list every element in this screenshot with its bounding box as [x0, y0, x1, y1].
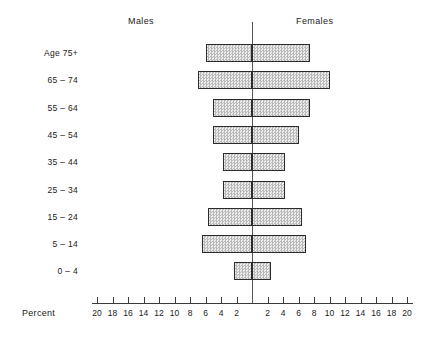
bar-male — [223, 181, 252, 199]
x-axis-tick — [407, 297, 408, 303]
bar-male — [213, 126, 252, 144]
plot-area: Age 75+65 – 7455 – 6445 – 5435 – 4425 – … — [0, 0, 444, 337]
bar-male — [208, 208, 252, 226]
x-axis-tick — [330, 297, 331, 303]
x-axis-tick — [345, 297, 346, 303]
bar-male — [213, 99, 252, 117]
x-axis-tick — [113, 297, 114, 303]
bar-row: 5 – 14 — [0, 235, 444, 253]
age-group-label: 45 – 54 — [48, 130, 78, 140]
age-group-label: Age 75+ — [44, 48, 78, 58]
age-group-label: 0 – 4 — [58, 266, 78, 276]
bar-female — [252, 44, 310, 62]
x-axis-tick — [283, 297, 284, 303]
x-axis-tick-label: 2 — [227, 308, 247, 318]
x-axis-tick — [128, 297, 129, 303]
x-axis-tick — [376, 297, 377, 303]
x-axis-tick — [190, 297, 191, 303]
bar-female — [252, 99, 310, 117]
bar-female — [252, 153, 285, 171]
bar-female — [252, 235, 306, 253]
x-axis-tick — [299, 297, 300, 303]
x-axis-tick — [97, 297, 98, 303]
bar-row: 45 – 54 — [0, 126, 444, 144]
bar-male — [223, 153, 252, 171]
bar-male — [198, 71, 252, 89]
bar-row: 55 – 64 — [0, 99, 444, 117]
x-axis-tick-label: 20 — [397, 308, 417, 318]
bar-female — [252, 126, 299, 144]
x-axis-tick — [221, 297, 222, 303]
bar-male — [206, 44, 253, 62]
age-group-label: 35 – 44 — [48, 157, 78, 167]
x-axis-tick — [314, 297, 315, 303]
age-group-label: 65 – 74 — [48, 75, 78, 85]
x-axis-title: Percent — [22, 308, 55, 318]
age-group-label: 55 – 64 — [48, 103, 78, 113]
x-axis-tick — [175, 297, 176, 303]
age-group-label: 15 – 24 — [48, 212, 78, 222]
age-group-label: 5 – 14 — [53, 239, 78, 249]
x-axis-tick — [237, 297, 238, 303]
bar-row: Age 75+ — [0, 44, 444, 62]
bar-row: 0 – 4 — [0, 262, 444, 280]
population-pyramid-chart: Males Females Age 75+65 – 7455 – 6445 – … — [0, 0, 444, 337]
bar-row: 25 – 34 — [0, 181, 444, 199]
bar-male — [234, 262, 252, 280]
bar-female — [252, 71, 330, 89]
bar-row: 35 – 44 — [0, 153, 444, 171]
bar-female — [252, 208, 302, 226]
bar-row: 65 – 74 — [0, 71, 444, 89]
x-axis-tick — [361, 297, 362, 303]
bar-row: 15 – 24 — [0, 208, 444, 226]
x-axis-tick — [159, 297, 160, 303]
bar-female — [252, 262, 271, 280]
age-group-label: 25 – 34 — [48, 185, 78, 195]
x-axis-tick — [206, 297, 207, 303]
bar-female — [252, 181, 285, 199]
x-axis-tick — [144, 297, 145, 303]
x-axis-line — [92, 303, 413, 304]
bar-male — [202, 235, 252, 253]
x-axis-tick — [268, 297, 269, 303]
x-axis-tick — [392, 297, 393, 303]
